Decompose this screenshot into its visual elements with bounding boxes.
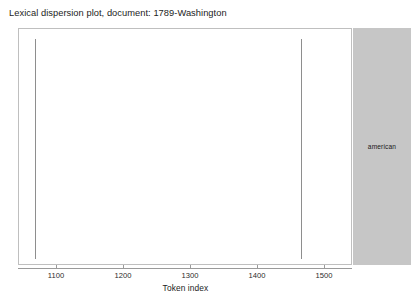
facet-strip-american: american [353, 28, 411, 265]
x-axis-tick-label: 1200 [115, 271, 132, 280]
x-axis-line [18, 268, 352, 269]
dispersion-mark [301, 39, 302, 259]
x-axis-tick [257, 265, 258, 269]
x-axis-tick [324, 265, 325, 269]
page-title: Lexical dispersion plot, document: 1789-… [9, 7, 227, 19]
facet-strip-label: american [353, 28, 411, 265]
x-axis-tick-label: 1100 [48, 271, 64, 280]
x-axis-tick [190, 265, 191, 269]
x-axis-tick-label: 1300 [182, 271, 199, 280]
dispersion-mark [35, 39, 36, 259]
x-axis-title: Token index [0, 283, 371, 293]
lexical-dispersion-plot: Lexical dispersion plot, document: 1789-… [0, 0, 411, 297]
x-axis-tick-label: 1500 [316, 271, 333, 280]
x-axis-tick-label: 1400 [249, 271, 266, 280]
x-axis-tick [56, 265, 57, 269]
plot-panel [18, 28, 352, 265]
x-axis-tick [123, 265, 124, 269]
